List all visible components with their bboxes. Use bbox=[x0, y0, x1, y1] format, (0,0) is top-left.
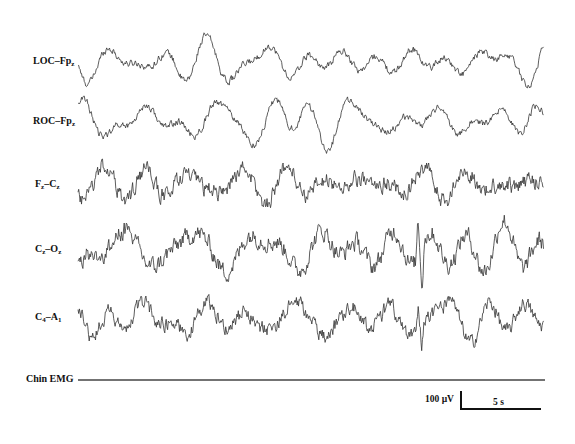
eeg-trace-c4-a1 bbox=[78, 294, 544, 350]
eeg-trace-roc-fpz bbox=[78, 96, 544, 153]
eeg-traces bbox=[0, 0, 575, 444]
eeg-trace-cz-oz bbox=[78, 215, 544, 288]
scale-time-label: 5 s bbox=[493, 397, 504, 407]
scale-voltage-label: 100 µV bbox=[425, 394, 454, 404]
eeg-trace-fz-cz bbox=[78, 159, 544, 208]
trace-group bbox=[78, 33, 544, 351]
eeg-trace-loc-fpz bbox=[78, 33, 544, 88]
